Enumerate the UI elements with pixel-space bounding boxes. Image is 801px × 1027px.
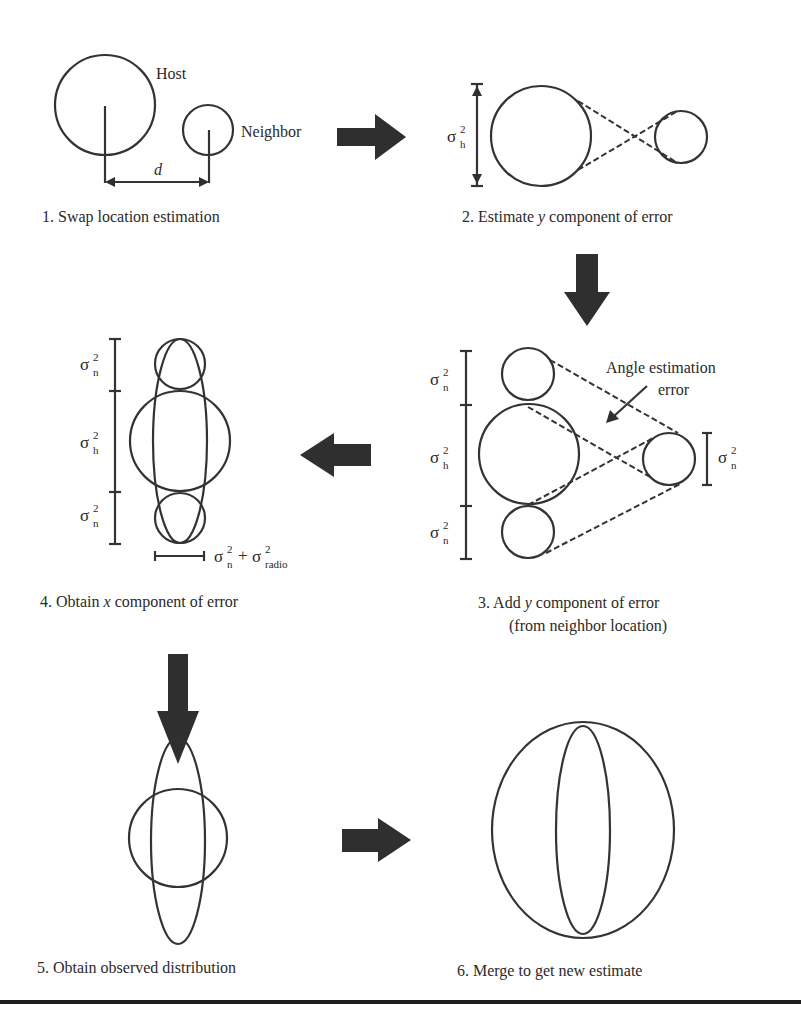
arrow-right-5-to-6 [342,818,411,862]
neighbor-circle [643,433,695,485]
sigma-n-label: σ [718,448,727,467]
sigma-h-label: σ [80,433,89,452]
sigma-sup: 2 [443,519,449,531]
sigma-sup: 2 [443,366,449,378]
sigma-sup: 2 [460,123,466,135]
angle-annotation-line1: Angle estimation [606,359,716,377]
caption-4: 4. Obtain x component of error [40,593,239,611]
bottom-neighbor-circle [502,506,554,558]
panel-1-swap-location: Host Neighbor d 1. Swap location estimat… [42,55,302,226]
host-label: Host [156,65,187,82]
plus-sign: + [238,546,248,565]
sigma-sub: n [731,459,737,471]
width-label: σ 2 n + σ 2 radio [214,543,288,570]
panel-3-add-y: Angle estimation error σ 2 n σ 2 h σ 2 n… [430,348,737,635]
sigma-h-label: σ [447,127,456,146]
sigma-sub: h [443,459,449,471]
sigma-sub: n [227,558,233,570]
sigma-sub: h [460,138,466,150]
arrow-right-1-to-2 [337,114,406,160]
panel-2-estimate-y: σ 2 h 2. Estimate y component of error [447,84,707,226]
arrow-down-2-to-3 [564,254,610,326]
tangent-line [528,407,650,477]
host-circle [491,86,591,186]
top-neighbor-circle [502,348,554,400]
caption-3-line1: 3. Add y component of error [478,594,660,612]
host-circle [129,789,227,887]
sigma-sub: n [443,381,449,393]
bottom-divider [0,1000,801,1004]
sigma-sup: 2 [93,351,99,363]
sigma-sup: 2 [443,444,449,456]
sigma-n-label: σ [430,370,439,389]
sigma-n-label: σ [80,355,89,374]
sigma-h-label: σ [430,448,439,467]
annotation-pointer [613,386,647,417]
merged-estimate-ellipse [492,722,674,938]
caption-5: 5. Obtain observed distribution [37,959,236,976]
host-circle [130,391,230,491]
sigma-sup: 2 [93,502,99,514]
swap-location-error-diagram: Host Neighbor d 1. Swap location estimat… [0,0,801,1027]
sigma-n-label: σ [80,506,89,525]
combined-ellipse [153,339,207,543]
range-arrowhead [472,86,482,96]
caption-1: 1. Swap location estimation [42,208,220,226]
sigma-sub: h [93,444,99,456]
sigma-sup: 2 [731,444,737,456]
panel-5-observed: 5. Obtain observed distribution [37,738,236,976]
sigma-sub: radio [265,558,288,570]
sigma-sub: n [93,517,99,529]
sigma-sup: 2 [265,543,271,555]
host-circle [479,404,579,504]
panel-4-obtain-x: σ 2 n σ 2 h σ 2 n σ 2 n + σ 2 radio 4. O… [40,339,288,611]
tangent-line [546,484,680,553]
sigma-n-base: σ [214,547,223,566]
sigma-n-label: σ [430,523,439,542]
sigma-radio-base: σ [252,547,261,566]
range-arrowhead [472,174,482,184]
arrow-left-3-to-4 [300,433,371,477]
arrow-down-4-to-5 [157,654,199,764]
sigma-sub: n [93,366,99,378]
distance-arrowhead-right [199,177,209,187]
distance-arrowhead-left [105,177,115,187]
observed-ellipse [556,726,610,934]
observed-ellipse [151,738,205,944]
tangent-line [528,437,655,505]
distance-label: d [154,161,163,178]
caption-3-line2: (from neighbor location) [509,617,667,635]
caption-6: 6. Merge to get new estimate [457,962,642,980]
panel-6-merge: 6. Merge to get new estimate [457,722,674,980]
neighbor-label: Neighbor [241,123,302,141]
sigma-sub: n [443,534,449,546]
caption-2: 2. Estimate y component of error [462,208,673,226]
angle-annotation-line2: error [658,381,690,398]
sigma-sup: 2 [227,543,233,555]
sigma-sup: 2 [93,429,99,441]
